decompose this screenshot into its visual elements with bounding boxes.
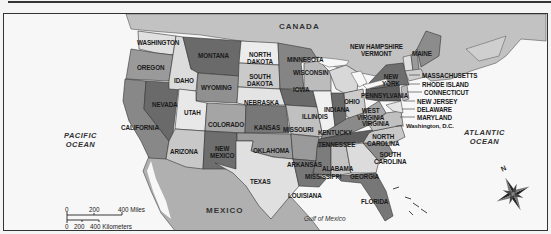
leader-lines	[4, 14, 548, 231]
compass-star-icon	[490, 170, 536, 216]
map-frame: CANADA MEXICO PACIFIC OCEAN ATLANTIC OCE…	[3, 13, 548, 231]
top-rule	[8, 1, 551, 3]
compass-rose: N	[490, 170, 536, 220]
